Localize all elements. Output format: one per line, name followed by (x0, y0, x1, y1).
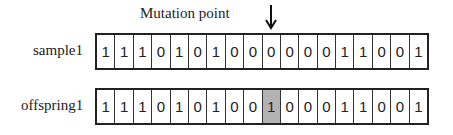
gene-cell: 1 (97, 90, 115, 123)
gene-cell: 0 (281, 35, 299, 68)
gene-cell: 0 (189, 35, 207, 68)
sample1-chromosome: 111010100000011001 (95, 33, 429, 70)
gene-cell: 0 (226, 35, 244, 68)
row-label-sample1: sample1 (33, 42, 83, 59)
gene-cell: 0 (152, 35, 170, 68)
gene-cell: 0 (391, 90, 409, 123)
gene-cell: 0 (391, 35, 409, 68)
mutation-point-label: Mutation point (140, 5, 230, 22)
gene-cell: 1 (207, 90, 225, 123)
gene-cell: 0 (263, 35, 281, 68)
down-arrow-icon (264, 4, 278, 30)
gene-cell: 0 (318, 35, 336, 68)
mutated-gene-cell: 1 (263, 90, 281, 123)
gene-cell: 1 (134, 90, 152, 123)
gene-cell: 0 (299, 35, 317, 68)
gene-cell: 1 (97, 35, 115, 68)
gene-cell: 0 (299, 90, 317, 123)
gene-cell: 0 (373, 35, 391, 68)
gene-cell: 1 (171, 35, 189, 68)
gene-cell: 1 (354, 90, 372, 123)
gene-cell: 1 (410, 35, 427, 68)
gene-cell: 1 (115, 90, 133, 123)
row-label-offspring1: offspring1 (21, 97, 83, 114)
gene-cell: 1 (336, 90, 354, 123)
gene-cell: 0 (189, 90, 207, 123)
gene-cell: 0 (281, 90, 299, 123)
gene-cell: 0 (373, 90, 391, 123)
gene-cell: 1 (410, 90, 427, 123)
gene-cell: 1 (134, 35, 152, 68)
gene-cell: 1 (207, 35, 225, 68)
gene-cell: 0 (226, 90, 244, 123)
gene-cell: 1 (336, 35, 354, 68)
gene-cell: 0 (152, 90, 170, 123)
gene-cell: 1 (354, 35, 372, 68)
gene-cell: 1 (115, 35, 133, 68)
gene-cell: 0 (318, 90, 336, 123)
gene-cell: 0 (244, 35, 262, 68)
gene-cell: 0 (244, 90, 262, 123)
offspring1-chromosome: 111010100100011001 (95, 88, 429, 125)
gene-cell: 1 (171, 90, 189, 123)
